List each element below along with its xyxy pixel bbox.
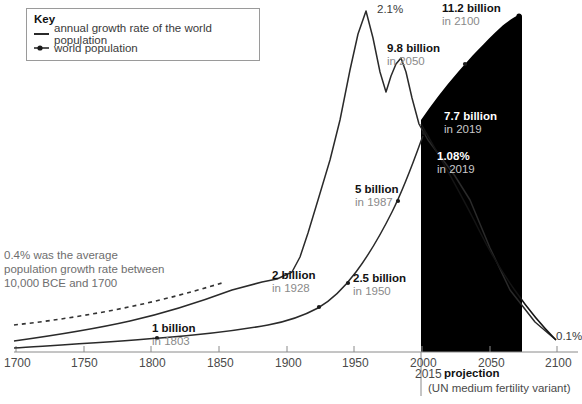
annotation-pop-1803-year: in 1803 — [152, 335, 195, 348]
annotation-pop-2019: 7.7 billion in 2019 — [444, 110, 497, 136]
annotation-pop-1950-value: 2.5 billion — [353, 272, 406, 285]
annotation-pop-1928-year: in 1928 — [272, 282, 315, 295]
x-tick-1800: 1800 — [139, 356, 166, 370]
annotation-pop-2050-value: 9.8 billion — [387, 42, 440, 55]
annotation-pop-1928: 2 billion in 1928 — [272, 269, 315, 295]
annotation-pop-2019-year: in 2019 — [444, 123, 497, 136]
annotation-pop-1950-year: in 1950 — [353, 285, 406, 298]
annotation-pop-2100-value: 11.2 billion — [442, 2, 501, 15]
annotation-growth-2019: 1.08% in 2019 — [437, 150, 475, 176]
projection-subcaption: (UN medium fertility variant) — [428, 382, 571, 394]
annotation-pop-1928-value: 2 billion — [272, 269, 315, 282]
legend-item-growth-rate: annual growth rate of the world populati… — [34, 27, 252, 41]
annotation-pop-1987: 5 billion in 1987 — [355, 183, 398, 209]
x-tick-1700: 1700 — [4, 356, 31, 370]
x-tick-1750: 1750 — [71, 356, 98, 370]
marker-25-billion — [346, 281, 350, 285]
annotation-pop-1950: 2.5 billion in 1950 — [353, 272, 406, 298]
legend-item-world-population-label: world population — [54, 42, 138, 54]
chart-legend: Key annual growth rate of the world popu… — [26, 8, 260, 61]
marker-98-billion — [463, 62, 467, 66]
marker-2-billion — [317, 305, 321, 309]
marker-112-billion — [516, 13, 521, 18]
annotation-pop-1987-year: in 1987 — [355, 196, 398, 209]
x-tick-1850: 1850 — [207, 356, 234, 370]
annotation-growth-2019-value: 1.08% — [437, 150, 475, 163]
x-tick-1950: 1950 — [342, 356, 369, 370]
average-growth-rate-note: 0.4% was the average population growth r… — [4, 248, 174, 290]
annotation-pop-2050-year: in 2050 — [387, 55, 440, 68]
annotation-pop-1987-value: 5 billion — [355, 183, 398, 196]
annotation-growth-2100: 0.1% — [556, 330, 582, 342]
annotation-pop-1803: 1 billion in 1803 — [152, 322, 195, 348]
population-growth-chart: Key annual growth rate of the world popu… — [0, 0, 582, 404]
annotation-pop-2019-value: 7.7 billion — [444, 110, 497, 123]
x-tick-2100: 2100 — [545, 356, 572, 370]
annotation-pop-2100: 11.2 billion in 2100 — [442, 2, 501, 28]
annotation-pop-2050: 9.8 billion in 2050 — [387, 42, 440, 68]
year-marker-2015: 2015 — [415, 367, 442, 381]
annotation-pop-2100-year: in 2100 — [442, 15, 501, 28]
annotation-growth-2019-year: in 2019 — [437, 163, 475, 176]
line-swatch-icon — [34, 28, 49, 40]
annotation-pop-1803-value: 1 billion — [152, 322, 195, 335]
x-tick-1900: 1900 — [275, 356, 302, 370]
projection-caption: projection — [444, 367, 500, 379]
annotation-peak-growth-rate: 2.1% — [377, 3, 403, 15]
line-dot-swatch-icon — [34, 42, 49, 54]
world-population-curve — [14, 136, 423, 348]
